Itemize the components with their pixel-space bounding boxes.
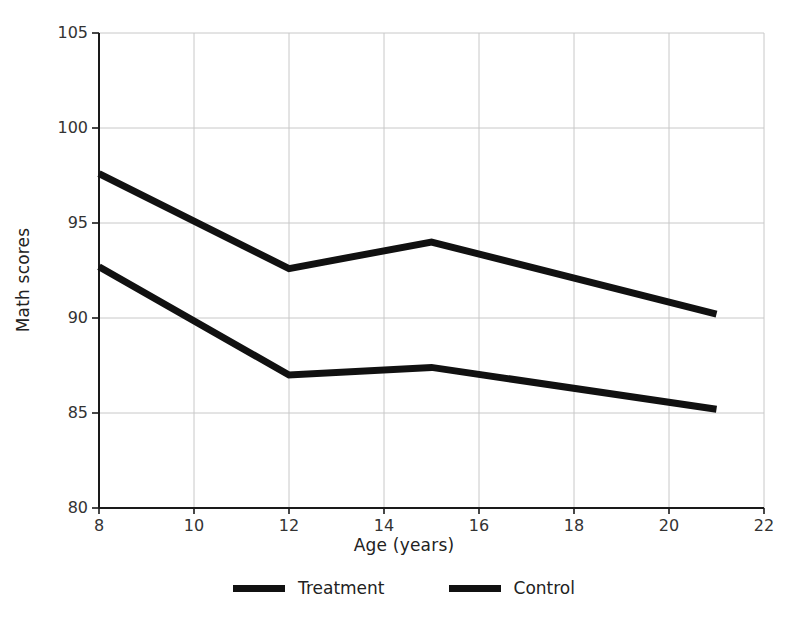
x-tick-label: 10 (169, 516, 219, 535)
y-tick-label: 100 (42, 118, 88, 137)
legend-item-treatment: Treatment (233, 578, 385, 598)
chart-legend: Treatment Control (0, 578, 808, 598)
series-line-treatment (99, 174, 717, 315)
y-tick-label: 105 (42, 23, 88, 42)
y-tick-label: 90 (42, 308, 88, 327)
x-tick-label: 18 (549, 516, 599, 535)
x-axis-title: Age (years) (0, 535, 808, 555)
y-axis-title: Math scores (13, 200, 33, 360)
x-tick-label: 20 (644, 516, 694, 535)
y-tick-label: 95 (42, 213, 88, 232)
legend-swatch-treatment (233, 585, 285, 592)
x-tick-label: 22 (739, 516, 789, 535)
x-tick-label: 12 (264, 516, 314, 535)
legend-item-control: Control (449, 578, 575, 598)
gridlines (99, 33, 764, 508)
x-tick-label: 14 (359, 516, 409, 535)
line-chart: 80859095100105 810121416182022 Age (year… (0, 0, 808, 626)
x-tick-label: 8 (74, 516, 124, 535)
legend-swatch-control (449, 585, 501, 592)
legend-label-control: Control (514, 578, 575, 598)
legend-label-treatment: Treatment (298, 578, 385, 598)
x-tick-label: 16 (454, 516, 504, 535)
y-tick-label: 80 (42, 498, 88, 517)
series-lines (99, 174, 717, 410)
tick-marks (92, 33, 764, 514)
axis-lines (99, 33, 764, 508)
y-tick-label: 85 (42, 403, 88, 422)
